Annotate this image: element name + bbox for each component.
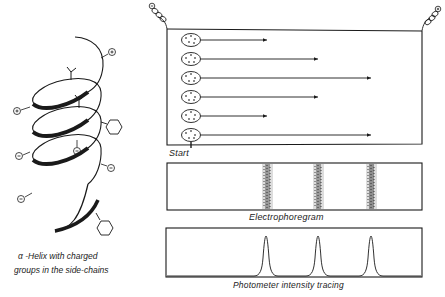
electrophoregram-strip: [167, 163, 422, 210]
electrophoregram-label: Electrophoregram: [249, 212, 324, 222]
side-chain-hexagons: [96, 120, 122, 235]
start-label: Start: [169, 148, 189, 158]
alpha-helix-drawing: [33, 37, 103, 232]
protein-particle: [182, 53, 319, 66]
protein-particle: [182, 91, 319, 104]
migration-rows: [182, 34, 372, 149]
protein-particle: [182, 110, 268, 123]
photometer-label: Photometer intensity tracing: [233, 280, 344, 290]
helix-caption-line1: α -Helix with charged: [18, 250, 98, 263]
helix-caption-line2: groups in the side-chains: [14, 264, 109, 277]
anode-coil-icon: [424, 6, 441, 26]
cathode-coil-icon: [149, 3, 167, 23]
electrophoresis-cell: [149, 3, 441, 145]
stained-bands: [262, 164, 377, 209]
protein-particle: [182, 72, 372, 85]
photometer-tracing: [166, 228, 422, 277]
intensity-curve: [167, 236, 421, 276]
protein-particle: [182, 129, 372, 142]
protein-particle: [182, 34, 268, 47]
charged-groups: [14, 49, 116, 203]
